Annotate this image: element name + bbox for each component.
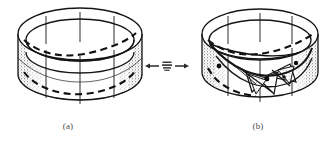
caption-a: (a) xyxy=(38,121,98,131)
transition-arrow-group xyxy=(143,52,191,80)
caption-b: (b) xyxy=(228,121,288,131)
center-symbol-icon xyxy=(162,62,172,71)
cylinder-diagram-b xyxy=(186,0,331,120)
left-arrow-icon xyxy=(145,64,159,69)
cylinder-diagram-a xyxy=(0,0,160,120)
figure-root: (a) (b) xyxy=(0,0,331,143)
double-headed-arrow xyxy=(143,52,191,80)
